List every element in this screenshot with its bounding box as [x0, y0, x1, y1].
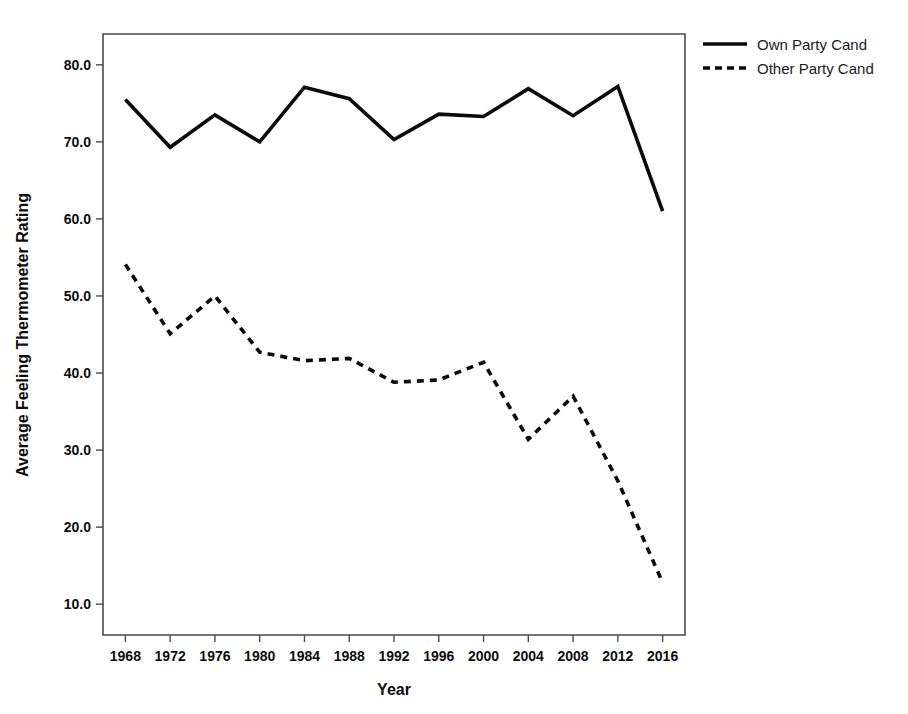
- y-tick-label: 30.0: [64, 442, 91, 458]
- y-tick-label: 70.0: [64, 134, 91, 150]
- y-tick-label: 80.0: [64, 57, 91, 73]
- y-tick-label: 50.0: [64, 288, 91, 304]
- x-tick-label: 2012: [602, 648, 633, 664]
- x-tick-label: 1976: [199, 648, 230, 664]
- plot-frame: [103, 34, 685, 635]
- x-tick-label: 1972: [155, 648, 186, 664]
- x-tick-label: 1980: [244, 648, 275, 664]
- x-tick-label: 2016: [647, 648, 678, 664]
- x-axis-title: Year: [377, 681, 411, 698]
- x-tick-label: 2000: [468, 648, 499, 664]
- x-tick-label: 1992: [378, 648, 409, 664]
- x-tick-label: 1996: [423, 648, 454, 664]
- legend-label: Own Party Cand: [757, 36, 867, 53]
- y-tick-label: 20.0: [64, 519, 91, 535]
- y-axis-title: Average Feeling Thermometer Rating: [14, 193, 31, 477]
- legend-label: Other Party Cand: [757, 60, 874, 77]
- y-tick-label: 60.0: [64, 211, 91, 227]
- chart-container: 10.020.030.040.050.060.070.080.0 1968197…: [0, 0, 908, 714]
- line-chart: 10.020.030.040.050.060.070.080.0 1968197…: [0, 0, 908, 714]
- y-axis: 10.020.030.040.050.060.070.080.0: [64, 57, 103, 612]
- x-tick-label: 2004: [513, 648, 544, 664]
- y-tick-label: 40.0: [64, 365, 91, 381]
- x-tick-label: 2008: [557, 648, 588, 664]
- y-tick-label: 10.0: [64, 596, 91, 612]
- x-tick-label: 1968: [110, 648, 141, 664]
- series-line-1: [125, 86, 662, 211]
- x-axis: 1968197219761980198419881992199620002004…: [110, 635, 679, 664]
- chart-legend: Own Party CandOther Party Cand: [703, 36, 874, 77]
- x-tick-label: 1984: [289, 648, 320, 664]
- x-tick-label: 1988: [334, 648, 365, 664]
- data-series-group: [125, 86, 662, 582]
- series-line-2: [125, 264, 662, 582]
